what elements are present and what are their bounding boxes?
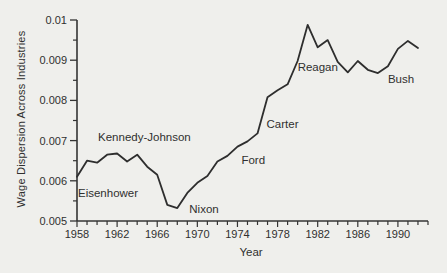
y-tick-label: 0.006 [39, 175, 67, 187]
annotation-ford: Ford [241, 154, 265, 166]
annotation-reagan: Reagan [298, 61, 338, 73]
x-axis-title: Year [239, 246, 262, 258]
wage-dispersion-figure: 0.0050.0060.0070.0080.0090.0119581962196… [0, 0, 447, 273]
y-tick-label: 0.01 [46, 14, 67, 26]
y-tick-label: 0.007 [39, 135, 67, 147]
y-tick-label: 0.005 [39, 215, 67, 227]
y-tick-label: 0.008 [39, 94, 67, 106]
x-tick-label: 1990 [386, 228, 410, 240]
annotation-kennedy-johnson: Kennedy-Johnson [98, 131, 191, 143]
wage-dispersion-line [77, 25, 418, 208]
x-tick-label: 1966 [145, 228, 169, 240]
annotation-carter: Carter [267, 118, 299, 130]
x-tick-label: 1986 [346, 228, 370, 240]
y-tick-label: 0.009 [39, 54, 67, 66]
y-axis-title: Wage Dispersion Across Industries [15, 31, 27, 208]
x-tick-label: 1970 [185, 228, 209, 240]
x-tick-label: 1978 [265, 228, 289, 240]
x-tick-label: 1974 [225, 228, 249, 240]
wage-dispersion-chart: 0.0050.0060.0070.0080.0090.0119581962196… [0, 0, 447, 273]
annotation-eisenhower: Eisenhower [78, 187, 138, 199]
x-tick-label: 1958 [65, 228, 89, 240]
annotation-bush: Bush [388, 73, 414, 85]
x-tick-label: 1982 [305, 228, 329, 240]
x-tick-label: 1962 [105, 228, 129, 240]
annotation-nixon: Nixon [189, 203, 218, 215]
